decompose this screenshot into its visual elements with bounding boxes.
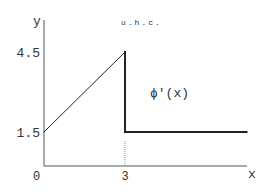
x-axis-label: x: [248, 167, 256, 182]
chart: y x u.h.c. ϕ′(x) 0 1.54.53: [0, 0, 266, 195]
series-label: ϕ′(x): [150, 86, 189, 101]
y-tick-label: 1.5: [17, 126, 40, 141]
origin-label: 0: [33, 170, 40, 184]
segment-ramp: [44, 52, 125, 132]
y-tick-label: 4.5: [17, 46, 40, 61]
y-axis-label: y: [33, 14, 41, 29]
x-tick-label: 3: [121, 170, 128, 184]
top-annotation: u.h.c.: [121, 18, 162, 27]
